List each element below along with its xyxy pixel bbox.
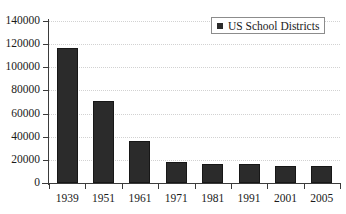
x-axis-tick — [267, 183, 268, 189]
y-axis-tick — [43, 137, 49, 138]
bar-1981 — [202, 164, 223, 183]
y-axis-tick-label: 0 — [0, 177, 40, 189]
legend-swatch-icon — [217, 23, 223, 29]
bar-1971 — [166, 162, 187, 183]
y-axis-tick-label: 140000 — [0, 15, 40, 27]
x-axis-tick — [49, 183, 50, 189]
y-axis-tick — [43, 67, 49, 68]
bar-2001 — [275, 166, 296, 183]
x-axis-tick — [304, 183, 305, 189]
y-axis-tick — [43, 44, 49, 45]
y-axis-tick — [43, 160, 49, 161]
bar-2005 — [311, 166, 332, 183]
y-axis-tick-label: 20000 — [0, 154, 40, 166]
x-axis-tick — [122, 183, 123, 189]
chart-legend: US School Districts — [211, 17, 325, 34]
x-axis-tick — [85, 183, 86, 189]
y-axis-tick-label: 100000 — [0, 61, 40, 73]
x-axis-tick — [340, 183, 341, 189]
y-axis-tick — [43, 90, 49, 91]
gridline — [49, 44, 340, 45]
x-axis-tick — [158, 183, 159, 189]
y-axis-tick-label: 80000 — [0, 84, 40, 96]
bar-1939 — [57, 48, 78, 183]
y-axis-tick-label: 60000 — [0, 108, 40, 120]
bar-chart: 020000400006000080000100000120000140000 … — [0, 0, 346, 214]
bar-1951 — [93, 101, 114, 183]
bar-1991 — [239, 164, 260, 183]
x-axis-tick — [195, 183, 196, 189]
bar-1961 — [129, 141, 150, 183]
y-axis-tick-label: 40000 — [0, 131, 40, 143]
y-axis-tick-label: 120000 — [0, 38, 40, 50]
gridline — [49, 67, 340, 68]
y-axis-tick — [43, 21, 49, 22]
legend-label: US School Districts — [228, 20, 319, 32]
x-axis-line — [42, 183, 341, 184]
x-axis-tick-label-2005: 2005 — [299, 192, 345, 204]
y-axis-tick — [43, 114, 49, 115]
x-axis-tick — [231, 183, 232, 189]
gridline — [49, 90, 340, 91]
